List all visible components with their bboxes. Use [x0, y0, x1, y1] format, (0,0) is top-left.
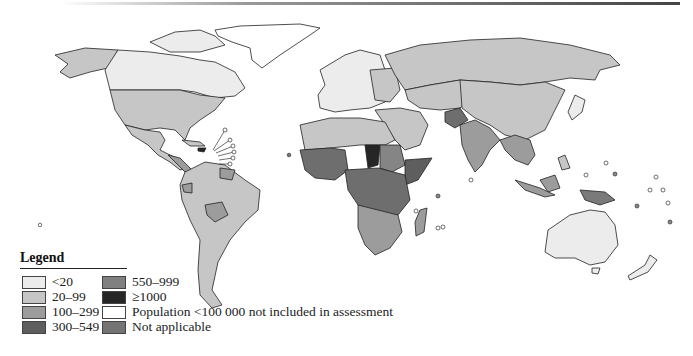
legend-swatch — [22, 291, 46, 304]
legend-label: 20–99 — [52, 289, 86, 305]
region-new-zealand — [628, 255, 657, 280]
legend-swatch — [102, 306, 126, 319]
legend-label: 550–999 — [132, 274, 179, 290]
region-haiti — [198, 148, 206, 152]
region-greenland — [215, 24, 320, 68]
region-philippines — [558, 155, 570, 170]
region-usa — [110, 90, 225, 140]
region-cuba — [182, 140, 205, 146]
region-west-africa — [300, 148, 348, 180]
legend-label: 300–549 — [52, 319, 99, 335]
legend-label: Not applicable — [132, 319, 211, 335]
legend-label: Population <100 000 not included in asse… — [132, 304, 393, 320]
legend-swatch — [102, 291, 126, 304]
legend-item-20-99: 20–99 — [22, 290, 86, 304]
region-ecuador — [182, 183, 192, 193]
legend-label: 100–299 — [52, 304, 99, 320]
legend-swatch — [22, 321, 46, 334]
region-australia — [545, 210, 618, 265]
legend-item-100-299: 100–299 — [22, 305, 99, 319]
region-chad — [365, 145, 380, 168]
legend-swatch — [102, 321, 126, 334]
region-sudan — [380, 145, 405, 172]
region-russia — [385, 38, 620, 90]
legend-item-not-applicable: Not applicable — [102, 320, 211, 334]
region-central-africa — [345, 168, 410, 215]
legend-swatch — [102, 276, 126, 289]
legend-item-ge1000: ≥1000 — [102, 290, 166, 304]
region-japan — [568, 95, 585, 120]
legend-swatch — [22, 276, 46, 289]
legend-label: ≥1000 — [132, 289, 166, 305]
legend-item-lt20: <20 — [22, 275, 73, 289]
legend-label: <20 — [52, 274, 73, 290]
region-canada-islands — [150, 30, 225, 52]
region-southeast-asia — [500, 135, 535, 165]
map-legend: Legend <20 20–99 100–299 300–549 550–999… — [20, 250, 360, 269]
legend-title: Legend — [20, 250, 127, 269]
legend-swatch — [22, 306, 46, 319]
region-png — [580, 190, 615, 205]
region-guyanas — [220, 168, 235, 180]
legend-item-550-999: 550–999 — [102, 275, 179, 289]
region-horn-of-africa — [405, 158, 432, 185]
legend-item-300-549: 300–549 — [22, 320, 99, 334]
region-tasmania — [592, 268, 600, 274]
legend-item-small-population: Population <100 000 not included in asse… — [102, 305, 393, 319]
